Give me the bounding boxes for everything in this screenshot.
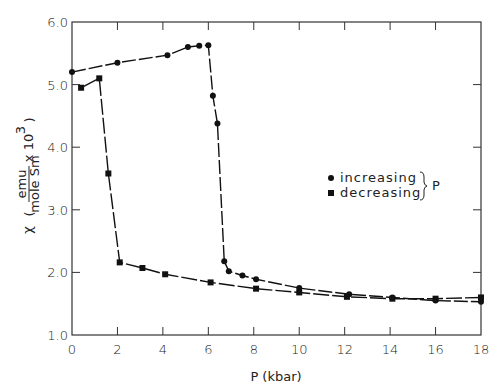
data-point-decreasing (344, 294, 350, 300)
data-point-increasing (210, 93, 216, 99)
legend-brace-label: P (432, 178, 441, 193)
data-point-increasing (239, 273, 245, 279)
data-point-increasing (114, 60, 120, 66)
data-point-decreasing (96, 75, 102, 81)
y-tick-label: 4.0 (47, 140, 68, 155)
y-tick-label: 5.0 (47, 78, 68, 93)
legend-circle-marker-icon (328, 175, 334, 181)
data-point-increasing (196, 43, 202, 49)
y-axis-exponent: 3 (13, 126, 28, 134)
data-point-decreasing (296, 289, 302, 295)
data-point-increasing (214, 120, 220, 126)
data-point-increasing (185, 44, 191, 50)
x-tick-label: 18 (473, 342, 490, 357)
y-tick-label: 2.0 (47, 265, 68, 280)
legend-label-increasing: increasing (340, 170, 417, 185)
data-point-decreasing (139, 265, 145, 271)
x-tick-label: 12 (336, 342, 353, 357)
data-point-increasing (205, 42, 211, 48)
x-tick-label: 2 (113, 342, 121, 357)
data-point-decreasing (478, 294, 484, 300)
data-point-increasing (221, 258, 227, 264)
x-tick-label: 14 (382, 342, 399, 357)
data-point-increasing (226, 268, 232, 274)
data-point-decreasing (78, 85, 84, 91)
x-tick-label: 4 (159, 342, 167, 357)
plot-frame (72, 22, 481, 335)
data-point-decreasing (117, 259, 123, 265)
data-point-decreasing (389, 296, 395, 302)
x-tick-label: 16 (427, 342, 444, 357)
legend-label-decreasing: decreasing (340, 185, 421, 200)
x-axis: 024681012141618 (68, 22, 489, 357)
data-point-decreasing (105, 170, 111, 176)
legend: increasing decreasing P (328, 170, 441, 200)
plot-border (72, 22, 481, 335)
x-tick-label: 8 (250, 342, 258, 357)
x-axis-label: P (kbar) (250, 369, 301, 384)
y-axis-symbol: χ (20, 226, 35, 234)
data-series (69, 42, 484, 305)
data-point-decreasing (253, 286, 259, 292)
data-point-decreasing (208, 279, 214, 285)
y-tick-label: 1.0 (47, 328, 68, 343)
series-line-increasing (72, 45, 481, 302)
data-point-increasing (164, 52, 170, 58)
x-tick-label: 10 (291, 342, 308, 357)
x-tick-label: 6 (204, 342, 212, 357)
data-point-decreasing (162, 271, 168, 277)
y-axis-label: χ ( emu mole Sm x 10 3 ) (13, 117, 42, 233)
chart: 024681012141618 1.02.03.04.05.06.0 P (kb… (0, 0, 495, 392)
data-point-decreasing (433, 296, 439, 302)
y-axis-denominator: mole Sm (27, 155, 42, 212)
y-tick-label: 6.0 (47, 15, 68, 30)
data-point-increasing (253, 276, 259, 282)
y-axis-paren-right: ) (22, 117, 37, 122)
legend-square-marker-icon (328, 190, 334, 196)
x-tick-label: 0 (68, 342, 76, 357)
y-tick-label: 3.0 (47, 203, 68, 218)
data-point-increasing (69, 69, 75, 75)
y-axis-multiplier: x 10 (21, 134, 36, 162)
